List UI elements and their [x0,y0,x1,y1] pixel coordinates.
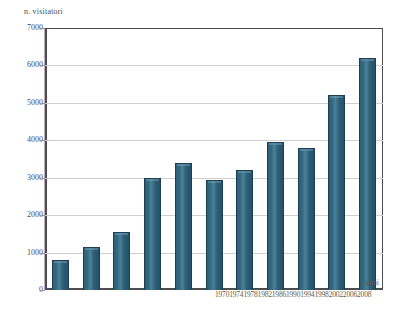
bar [206,180,223,290]
y-tick-label: 0 [3,285,43,294]
bar-chart: n. visitatori 01000200030004000500060007… [0,0,418,320]
y-tick-label: 1000 [3,248,43,257]
x-tick-label: 2006 [343,290,357,299]
bar [298,148,315,290]
x-tick-label: 1994 [300,290,314,299]
bar [359,58,376,290]
x-axis-tick-labels: 1970197419781982198619901994199820022006… [215,290,371,299]
bar [144,178,161,290]
y-tick-label: 2000 [3,210,43,219]
y-axis-tick-labels: 01000200030004000500060007000 [0,0,43,320]
bar [236,170,253,290]
x-tick-label: 1982 [258,290,272,299]
x-tick-label: 1978 [243,290,257,299]
x-tick-label: 1974 [229,290,243,299]
y-tick-label: 5000 [3,98,43,107]
x-tick-label: 1970 [215,290,229,299]
bar [267,142,284,290]
y-tick-label: 4000 [3,135,43,144]
y-tick-mark [40,290,45,291]
x-tick-label: 1990 [286,290,300,299]
x-tick-label: 2002 [329,290,343,299]
x-axis-title: anni [366,278,379,287]
y-tick-label: 6000 [3,60,43,69]
x-tick-label: 2008 [357,290,371,299]
bar [83,247,100,290]
bar [175,163,192,290]
x-tick-label: 1986 [272,290,286,299]
bar [328,95,345,290]
bar [52,260,69,290]
y-tick-label: 7000 [3,23,43,32]
x-tick-label: 1998 [314,290,328,299]
y-tick-label: 3000 [3,173,43,182]
bar [113,232,130,290]
bar-series [45,28,383,290]
